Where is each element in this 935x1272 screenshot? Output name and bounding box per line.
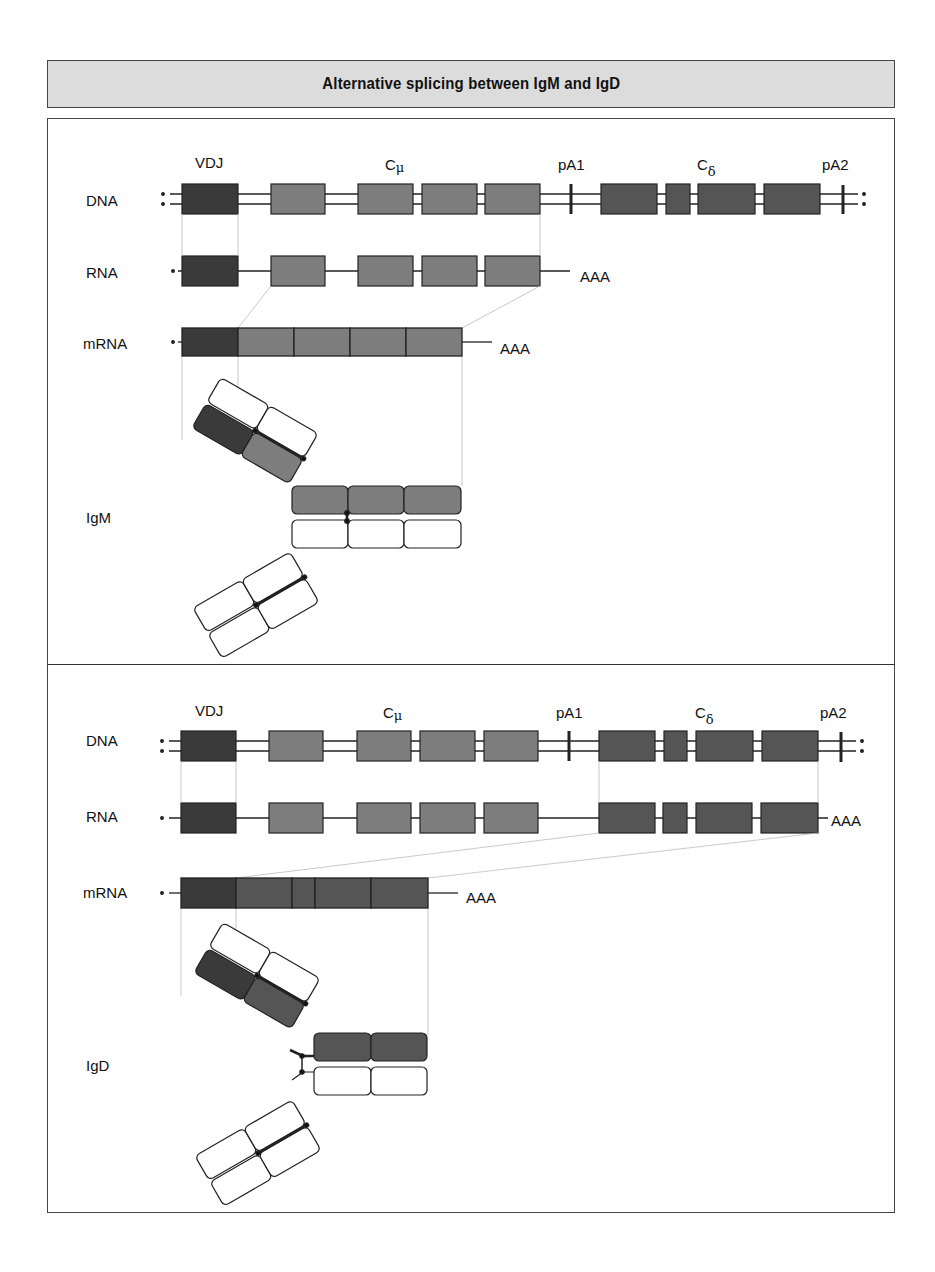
mrna-polya-tail: AAA bbox=[466, 889, 496, 906]
igm-panel: VDJ Cμ pA1 Cδ pA2 DNA RNA mRNA bbox=[83, 154, 865, 658]
rna-row-label: RNA bbox=[86, 264, 118, 281]
dna-row-label: DNA bbox=[86, 732, 118, 749]
rna-exons bbox=[181, 803, 818, 833]
rna-row-label: RNA bbox=[86, 808, 118, 825]
splicing-diagram: VDJ Cμ pA1 Cδ pA2 DNA RNA mRNA bbox=[0, 0, 935, 1272]
mrna-strand bbox=[172, 328, 492, 356]
mrna-row-label: mRNA bbox=[83, 335, 127, 352]
igd-antibody bbox=[194, 923, 427, 1207]
igd-panel: VDJ Cμ pA1 Cδ pA2 DNA RNA mRNA bbox=[83, 702, 863, 1206]
cmu-label: Cμ bbox=[385, 156, 404, 175]
vdj-label: VDJ bbox=[195, 702, 223, 719]
rna-polya-tail: AAA bbox=[831, 812, 861, 829]
mrna-row-label: mRNA bbox=[83, 884, 127, 901]
igm-antibody bbox=[192, 378, 461, 659]
pa1-label: pA1 bbox=[556, 704, 583, 721]
dna-exons bbox=[181, 731, 818, 761]
igm-label: IgM bbox=[86, 509, 111, 526]
cmu-label: Cμ bbox=[383, 704, 402, 723]
mrna-polya-tail: AAA bbox=[500, 340, 530, 357]
cdelta-label: Cδ bbox=[695, 704, 714, 727]
pa1-label: pA1 bbox=[558, 156, 585, 173]
rna-polya-tail: AAA bbox=[580, 268, 610, 285]
vdj-label: VDJ bbox=[195, 154, 223, 171]
mrna-strand bbox=[161, 878, 458, 908]
cdelta-label: Cδ bbox=[697, 156, 716, 179]
pa2-label: pA2 bbox=[820, 704, 847, 721]
igd-label: IgD bbox=[86, 1057, 110, 1074]
dna-exons bbox=[182, 184, 820, 214]
rna-exons bbox=[182, 256, 540, 286]
pa2-label: pA2 bbox=[822, 156, 849, 173]
dna-row-label: DNA bbox=[86, 192, 118, 209]
